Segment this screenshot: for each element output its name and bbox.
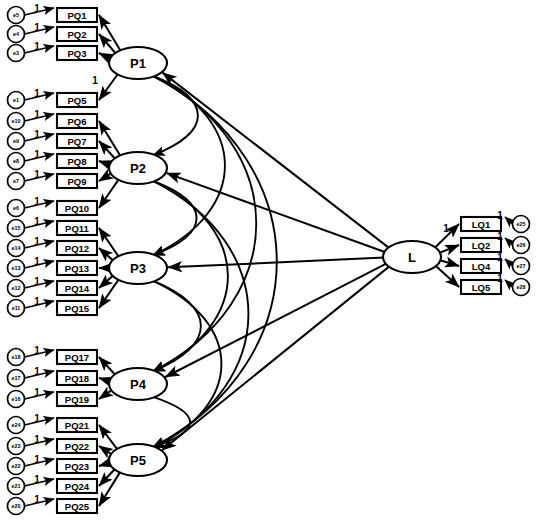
sem-path-diagram: PQ1PQ2PQ3PQ5PQ6PQ7PQ8PQ9PQ10PQ11PQ12PQ13… bbox=[0, 0, 544, 521]
factor-loading-path bbox=[99, 179, 119, 208]
correlation-arc bbox=[153, 76, 256, 371]
indicator-label: PQ11 bbox=[65, 223, 89, 234]
indicator-label: PQ14 bbox=[65, 283, 90, 294]
latent-factor-label: P3 bbox=[130, 261, 146, 276]
coefficient-label: 1 bbox=[34, 88, 40, 99]
error-path bbox=[505, 259, 513, 266]
indicator-box: PQ2 bbox=[57, 27, 97, 41]
error-path bbox=[505, 217, 513, 224]
indicator-label: PQ9 bbox=[67, 176, 86, 187]
error-term: e7 bbox=[8, 173, 25, 190]
factor-loading-path bbox=[99, 275, 114, 288]
factor-loading-path bbox=[99, 121, 121, 157]
factor-loading-path bbox=[99, 279, 119, 308]
error-term: e23 bbox=[8, 438, 25, 455]
coefficient-label: 1 bbox=[34, 434, 40, 445]
error-term: e10 bbox=[8, 113, 25, 130]
error-term: e24 bbox=[8, 417, 25, 434]
coefficient-label: 1 bbox=[34, 169, 40, 180]
error-label: e5 bbox=[13, 12, 19, 18]
error-label: e25 bbox=[517, 221, 526, 227]
error-label: e8 bbox=[13, 158, 19, 164]
latent-factor: P2 bbox=[109, 152, 167, 184]
indicator-label: PQ6 bbox=[67, 116, 86, 127]
indicator-box: PQ17 bbox=[57, 350, 97, 364]
latent-factor: P4 bbox=[109, 368, 167, 400]
latent-factor: P1 bbox=[109, 47, 167, 79]
latent-factor: P5 bbox=[109, 444, 167, 476]
factor-loading-path bbox=[438, 260, 459, 266]
latent-factor: P3 bbox=[109, 252, 167, 284]
coefficient-label: 1 bbox=[34, 494, 40, 505]
coefficient-label: 1 bbox=[34, 387, 40, 398]
coefficient-label: 1 bbox=[34, 109, 40, 120]
error-term: e28 bbox=[513, 279, 530, 296]
error-label: e23 bbox=[12, 443, 21, 449]
latent-factor-label: L bbox=[408, 250, 416, 265]
latent-factor: L bbox=[383, 241, 441, 273]
coefficient-label: 1 bbox=[34, 345, 40, 356]
factor-loading-path bbox=[99, 73, 118, 100]
factor-loading-path bbox=[435, 265, 459, 287]
indicator-box: PQ11 bbox=[57, 221, 97, 235]
indicator-label: PQ3 bbox=[67, 48, 86, 59]
diagram-canvas: PQ1PQ2PQ3PQ5PQ6PQ7PQ8PQ9PQ10PQ11PQ12PQ13… bbox=[0, 0, 544, 521]
indicator-box: PQ21 bbox=[57, 418, 97, 432]
indicator-label: PQ5 bbox=[67, 95, 87, 106]
indicator-box: PQ9 bbox=[57, 174, 97, 188]
error-term: e6 bbox=[8, 200, 25, 217]
error-label: e16 bbox=[12, 396, 21, 402]
error-label: e14 bbox=[12, 245, 21, 251]
indicator-box: PQ14 bbox=[57, 281, 97, 295]
error-label: e1 bbox=[13, 97, 19, 103]
error-label: e13 bbox=[12, 265, 21, 271]
coefficient-label: 1 bbox=[443, 223, 449, 234]
coefficient-label: 1 bbox=[34, 236, 40, 247]
indicator-box: PQ15 bbox=[57, 301, 97, 315]
coefficient-label: 1 bbox=[497, 231, 503, 242]
indicator-label: PQ10 bbox=[65, 203, 89, 214]
indicator-box: PQ24 bbox=[57, 479, 97, 493]
latent-factor-label: P2 bbox=[130, 161, 146, 176]
error-label: e9 bbox=[13, 138, 19, 144]
error-label: e28 bbox=[517, 284, 526, 290]
coefficient-label: 1 bbox=[497, 210, 503, 221]
coefficient-label: 1 bbox=[497, 273, 503, 284]
error-label: e11 bbox=[12, 305, 21, 311]
indicator-box: PQ7 bbox=[57, 134, 97, 148]
error-term: e26 bbox=[513, 237, 530, 254]
coefficient-label: 1 bbox=[34, 149, 40, 160]
coefficient-label: 1 bbox=[34, 413, 40, 424]
indicator-box: LQ1 bbox=[461, 217, 501, 231]
error-term: e3 bbox=[8, 45, 25, 62]
error-label: e7 bbox=[13, 178, 19, 184]
error-term: e21 bbox=[8, 478, 25, 495]
factor-loading-path bbox=[99, 425, 118, 450]
indicator-label: PQ7 bbox=[67, 136, 86, 147]
indicator-box: LQ2 bbox=[461, 238, 501, 252]
error-term: e22 bbox=[8, 458, 25, 475]
indicator-box: PQ13 bbox=[57, 261, 97, 275]
factor-loading-path bbox=[99, 34, 116, 54]
coefficient-label: 1 bbox=[34, 22, 40, 33]
factor-loading-path bbox=[99, 471, 121, 506]
error-path bbox=[505, 238, 513, 245]
indicator-label: PQ18 bbox=[65, 373, 89, 384]
coefficient-label: 1 bbox=[497, 252, 503, 263]
factor-loading-path bbox=[99, 228, 119, 257]
indicator-box: PQ10 bbox=[57, 201, 97, 215]
correlation-arcs-layer bbox=[153, 76, 277, 447]
error-label: e3 bbox=[13, 50, 19, 56]
error-label: e17 bbox=[12, 375, 21, 381]
factor-loading-path bbox=[99, 357, 116, 376]
error-term: e14 bbox=[8, 240, 25, 257]
error-term: e15 bbox=[8, 220, 25, 237]
coefficient-label: 1 bbox=[34, 256, 40, 267]
indicator-box: PQ18 bbox=[57, 371, 97, 385]
indicator-label: PQ1 bbox=[67, 10, 87, 21]
indicator-label: PQ15 bbox=[65, 303, 90, 314]
error-label: e21 bbox=[12, 483, 21, 489]
coefficient-label: 1 bbox=[34, 196, 40, 207]
error-term: e9 bbox=[8, 133, 25, 150]
indicator-label: PQ22 bbox=[65, 441, 89, 452]
